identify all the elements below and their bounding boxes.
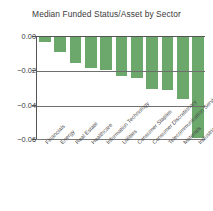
bar[interactable] <box>85 37 97 68</box>
bar-slot <box>131 37 143 139</box>
bar[interactable] <box>162 37 174 90</box>
x-tick-label: Energy <box>59 141 63 145</box>
bar[interactable] <box>54 37 66 52</box>
x-tick-label: Consumer Staples <box>136 141 140 145</box>
x-tick-label: Financials <box>44 141 48 145</box>
x-tick-label: Utilities <box>121 141 125 145</box>
y-tick-label: 0.00 <box>2 32 36 41</box>
gridline <box>37 71 205 72</box>
x-tick-label: Information Technology <box>105 141 109 145</box>
bar-slot <box>39 37 51 139</box>
y-tick-label: −0.06 <box>2 135 36 144</box>
x-axis-tick-labels: FinancialsEnergyReal EstateHealthcareInf… <box>36 141 205 211</box>
x-tick-label: Materials <box>182 141 186 145</box>
x-tick-label: Healthcare <box>90 141 94 145</box>
x-tick-label: Real Estate <box>74 141 78 145</box>
y-axis: 0.00−0.02−0.04−0.06 <box>0 0 36 211</box>
x-tick-label: Consumer Discretionary <box>151 141 155 145</box>
bar[interactable] <box>177 37 189 99</box>
bar[interactable] <box>39 37 51 42</box>
bar[interactable] <box>70 37 82 63</box>
x-tick-label: Industrials <box>197 141 201 145</box>
chart-figure: Median Funded Status/Asset by Sector 0.0… <box>0 0 213 211</box>
bar[interactable] <box>146 37 158 89</box>
bar[interactable] <box>192 37 204 138</box>
x-tick-label: Telecommunication Services <box>167 141 171 145</box>
y-tick-label: −0.04 <box>2 100 36 109</box>
gridline <box>37 106 205 107</box>
bar-slot <box>70 37 82 139</box>
bar[interactable] <box>100 37 112 70</box>
bar-slot <box>192 37 204 139</box>
y-tick-label: −0.02 <box>2 66 36 75</box>
